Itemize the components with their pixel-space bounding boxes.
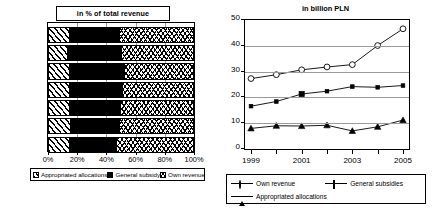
left-chart-panel: in % of total revenue Appropriated alloc… <box>0 0 216 214</box>
legend-item: General subsidies <box>325 179 403 188</box>
legend-item-label: Own revenue <box>168 171 205 178</box>
bar-row <box>48 133 194 157</box>
left-chart-x-tick-label: 0% <box>35 155 61 164</box>
bar-segment-own <box>116 137 194 153</box>
right-chart-title: in billion PLN <box>216 4 435 13</box>
legend-marker-circle-icon <box>231 179 253 188</box>
right-chart-x-tick-label: 2003 <box>337 156 367 165</box>
bar-segment-subsidy <box>70 137 116 153</box>
data-point-square-filled <box>401 84 405 88</box>
right-chart-y-tick-label: 0 <box>218 143 240 151</box>
data-point-square-filled <box>351 85 355 89</box>
bar-segment-alloc <box>48 137 70 153</box>
right-chart-y-tick <box>241 96 244 97</box>
legend-item-label: Appropriated allocations <box>256 193 327 200</box>
figure-root: in % of total revenue Appropriated alloc… <box>0 0 435 214</box>
right-chart-y-tick-label: 10 <box>218 117 240 125</box>
data-point-circle-open <box>349 62 355 68</box>
right-chart-y-tick-label: 20 <box>218 91 240 99</box>
left-chart-x-tick-label: 60% <box>123 155 149 164</box>
legend-item-label: Own revenue <box>256 180 295 187</box>
right-chart-x-tick <box>403 150 404 154</box>
right-chart-gridline <box>245 123 409 124</box>
right-chart-y-tick <box>241 148 244 149</box>
legend-row: Appropriated allocations <box>231 190 421 203</box>
left-chart-title-box: in % of total revenue <box>56 6 170 21</box>
data-point-circle-open <box>273 72 279 78</box>
right-chart-y-tick <box>241 122 244 123</box>
legend-row: Own revenueGeneral subsidies <box>231 177 421 190</box>
right-chart-x-tick-label: 1999 <box>236 156 266 165</box>
legend-item: General subsidy <box>107 171 160 178</box>
right-chart-x-tick <box>327 150 328 154</box>
right-chart-y-tick <box>241 45 244 46</box>
right-chart-plot-area <box>244 19 410 150</box>
right-chart-x-tick-label: 2001 <box>287 156 317 165</box>
data-point-square-filled <box>299 91 304 96</box>
legend-item: Appropriated allocations <box>33 171 107 178</box>
legend-swatch-alloc-icon <box>33 172 39 178</box>
right-chart-gridline <box>245 46 409 47</box>
left-chart-x-tick-label: 80% <box>152 155 178 164</box>
right-chart-x-tick <box>251 150 252 154</box>
right-chart-y-tick <box>241 19 244 20</box>
right-chart-x-tick <box>378 150 379 154</box>
right-chart-series-svg <box>245 20 409 149</box>
left-chart-x-tick-label: 20% <box>64 155 90 164</box>
legend-item: Own revenue <box>231 179 295 188</box>
right-chart-legend: Own revenueGeneral subsidiesAppropriated… <box>226 174 426 204</box>
right-chart-x-tick <box>352 150 353 154</box>
legend-marker-square-icon <box>325 179 347 188</box>
left-chart-x-tick-label: 40% <box>93 155 119 164</box>
legend-marker-triangle-icon <box>231 192 253 201</box>
data-point-square-filled <box>376 86 380 90</box>
legend-item-label: General subsidies <box>350 180 403 187</box>
data-point-circle-open <box>324 64 330 70</box>
right-chart-y-tick <box>241 71 244 72</box>
left-chart-legend: Appropriated allocationsGeneral subsidyO… <box>30 168 205 181</box>
right-chart-y-tick-label: 40 <box>218 40 240 48</box>
data-point-circle-open <box>400 26 406 32</box>
legend-item-label: General subsidy <box>115 171 160 178</box>
legend-swatch-own-icon <box>160 172 166 178</box>
legend-item-label: Appropriated allocations <box>41 171 107 178</box>
right-chart-y-tick-label: 30 <box>218 66 240 74</box>
left-chart-plot-area <box>47 22 195 152</box>
right-chart-gridline <box>245 72 409 73</box>
data-point-circle-open <box>248 76 254 82</box>
legend-item: Own revenue <box>160 171 205 178</box>
right-chart-gridline <box>245 97 409 98</box>
legend-swatch-subsidy-icon <box>107 172 113 178</box>
data-point-square-filled <box>275 100 279 104</box>
right-chart-x-tick <box>276 150 277 154</box>
right-chart-x-tick <box>302 150 303 154</box>
series-line-square-filled <box>251 86 403 107</box>
right-chart-x-tick-label: 2005 <box>388 156 418 165</box>
right-chart-y-tick-label: 50 <box>218 14 240 22</box>
data-point-triangle-filled <box>400 117 406 123</box>
right-chart-panel: in billion PLN Own revenueGeneral subsid… <box>216 0 435 214</box>
data-point-square-filled <box>325 89 329 93</box>
data-point-square-filled <box>249 104 253 108</box>
left-chart-x-tick-label: 100% <box>181 155 207 164</box>
left-chart-title: in % of total revenue <box>77 9 149 18</box>
legend-item: Appropriated allocations <box>231 192 327 201</box>
